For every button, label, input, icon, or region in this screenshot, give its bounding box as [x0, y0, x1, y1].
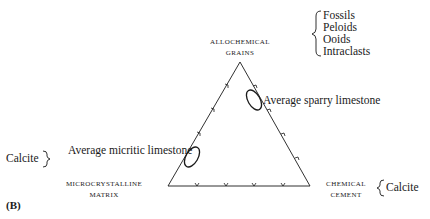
- vertex-label-left: MICROCRYSTALLINE MATRIX: [57, 179, 151, 201]
- vertex-label-right-line2: CEMENT: [320, 190, 372, 201]
- right-brace: [377, 180, 384, 196]
- cement-composition: Calcite: [386, 181, 419, 193]
- allochem-list: Fossils Peloids Ooids Intraclasts: [323, 9, 370, 57]
- figure-label: (B): [6, 199, 21, 211]
- allochem-item: Fossils: [323, 9, 370, 21]
- sparry-limestone-label: Average sparry limestone: [263, 94, 380, 106]
- vertex-label-right-line1: CHEMICAL: [320, 179, 372, 190]
- vertex-label-top: ALLOCHEMICAL GRAINS: [197, 37, 283, 59]
- vertex-label-left-line2: MATRIX: [57, 190, 151, 201]
- matrix-composition: Calcite: [6, 152, 39, 164]
- allochem-item: Ooids: [323, 33, 370, 45]
- vertex-label-top-line2: GRAINS: [197, 48, 283, 59]
- vertex-label-top-line1: ALLOCHEMICAL: [197, 37, 283, 48]
- left-brace: [43, 151, 50, 167]
- micritic-limestone-label: Average micritic limestone: [68, 144, 192, 156]
- top-brace: [312, 11, 321, 56]
- allochem-item: Peloids: [323, 21, 370, 33]
- allochem-item: Intraclasts: [323, 45, 370, 57]
- vertex-label-left-line1: MICROCRYSTALLINE: [57, 179, 151, 190]
- vertex-label-right: CHEMICAL CEMENT: [320, 179, 372, 201]
